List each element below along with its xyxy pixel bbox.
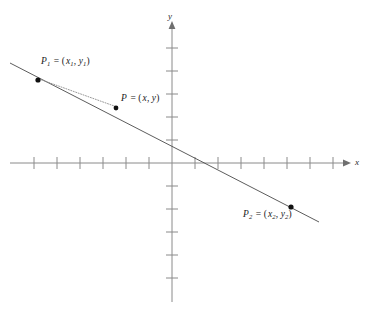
point-label-p1-y-subscript: 1 [83,60,86,67]
point-label-p2-equals: = ( [252,209,268,219]
point-label-p1: P1 = (x1, y1) [41,56,90,66]
point-label-p2-y-subscript: 2 [285,213,288,220]
y-axis-label: y [168,11,172,21]
point-label-p2-subscript: 2 [249,213,252,220]
point-marker-p [114,106,119,111]
point-label-p1-close: ) [86,56,89,66]
point-label-p2-x-subscript: 2 [272,213,275,220]
point-label-p2-close: ) [288,209,291,219]
point-label-p: P = (x, y) [121,93,159,103]
point-label-p1-x-subscript: 1 [70,60,73,67]
point-label-p-equals: = ( [127,93,143,103]
x-axis-arrowhead [343,160,351,167]
dotted-segment-p1-to-p [39,79,117,107]
point-marker-p1 [35,77,40,82]
point-label-p-close: ) [156,93,159,103]
y-axis-arrowhead [169,21,176,29]
line-through-points [10,63,319,222]
coordinate-plane-figure: y x P1 = (x1, y1) P = (x, y) P2 = (x2, y… [0,0,367,312]
point-label-p2: P2 = (x2, y2) [243,209,292,219]
x-axis-label: x [355,157,359,167]
point-label-p1-equals: = ( [50,56,66,66]
point-label-p1-subscript: 1 [47,60,50,67]
figure-canvas [0,0,367,312]
